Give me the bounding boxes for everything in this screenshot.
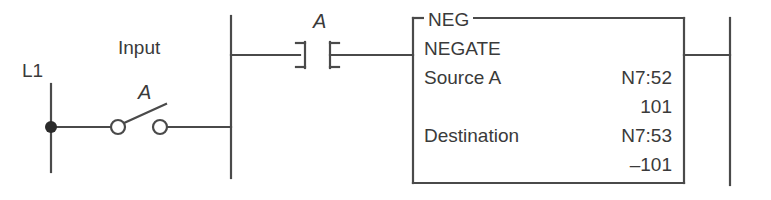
neg-destination-address: N7:53	[492, 126, 672, 145]
neg-source-a-address: N7:52	[492, 68, 672, 87]
l1-junction-dot	[45, 121, 57, 133]
l1-label: L1	[22, 61, 43, 80]
neg-name-label: NEGATE	[424, 39, 501, 58]
switch-terminal-right	[153, 120, 167, 134]
contact-label-a: A	[313, 11, 326, 31]
neg-source-a-label: Source A	[424, 68, 501, 87]
neg-source-a-value: 101	[492, 97, 672, 116]
neg-destination-value: –101	[492, 155, 672, 174]
ladder-diagram-canvas: L1 Input A A NEG NEGATE Source A N7:52 1…	[0, 0, 771, 200]
switch-label-a: A	[138, 82, 151, 102]
input-label: Input	[118, 38, 160, 57]
switch-terminal-left	[111, 120, 125, 134]
neg-mnemonic-label: NEG	[424, 10, 473, 29]
